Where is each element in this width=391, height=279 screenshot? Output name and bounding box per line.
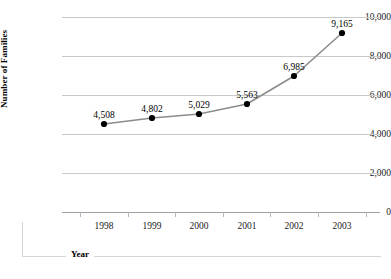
data-point-marker (291, 73, 297, 79)
data-point-marker (339, 30, 345, 36)
data-point-label: 6,985 (267, 62, 321, 72)
data-point-marker (196, 111, 202, 117)
footer-left-rule (22, 222, 23, 257)
data-point-marker (101, 121, 107, 127)
x-axis-title: Year (66, 249, 94, 259)
y-axis-title: Number of Families (0, 30, 9, 108)
data-point-label: 5,563 (220, 90, 274, 100)
data-point-marker (149, 115, 155, 121)
data-point-label: 4,802 (125, 104, 179, 114)
line-chart: 10,000 8,000 6,000 4,000 2,000 0 1998 19… (0, 0, 391, 279)
data-point-marker (244, 101, 250, 107)
data-series (0, 0, 391, 279)
data-point-label: 5,029 (172, 100, 226, 110)
data-point-label: 9,165 (315, 19, 369, 29)
data-point-label: 4,508 (77, 110, 131, 120)
